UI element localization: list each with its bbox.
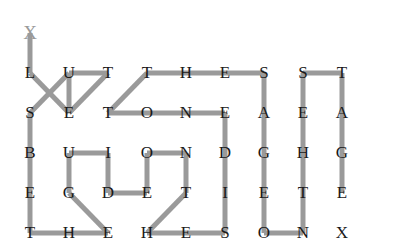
grid-letter-r0-c5[interactable]: E [213, 61, 237, 85]
grid-letter-r2-c4[interactable]: N [174, 141, 198, 165]
grid-letter-r3-c5[interactable]: I [213, 181, 237, 205]
puzzle-canvas: LUTTHESSTSETONEAEABUIONDGHGEGDETIETETHEH… [0, 0, 395, 242]
grid-letter-r3-c3[interactable]: E [135, 181, 159, 205]
grid-letter-r3-c1[interactable]: G [57, 181, 81, 205]
grid-letter-r2-c7[interactable]: H [291, 141, 315, 165]
grid-letter-r1-c0[interactable]: S [18, 101, 42, 125]
grid-letter-r4-c5[interactable]: S [213, 221, 237, 242]
grid-letter-r4-c4[interactable]: E [174, 221, 198, 242]
grid-letter-r2-c1[interactable]: U [57, 141, 81, 165]
grid-letter-r1-c7[interactable]: E [291, 101, 315, 125]
grid-letter-r4-c7[interactable]: N [291, 221, 315, 242]
grid-letter-r0-c0[interactable]: L [18, 61, 42, 85]
grid-letter-r3-c8[interactable]: E [330, 181, 354, 205]
grid-letter-r0-c3[interactable]: T [135, 61, 159, 85]
grid-letter-r1-c6[interactable]: A [252, 101, 276, 125]
grid-letter-r0-c6[interactable]: S [252, 61, 276, 85]
grid-letter-r4-c0[interactable]: T [18, 221, 42, 242]
grid-letter-r3-c2[interactable]: D [96, 181, 120, 205]
grid-letter-r0-c4[interactable]: H [174, 61, 198, 85]
grid-letter-r3-c4[interactable]: T [174, 181, 198, 205]
grid-letter-r4-c1[interactable]: H [57, 221, 81, 242]
grid-letter-r0-c7[interactable]: S [291, 61, 315, 85]
grid-letter-r0-c8[interactable]: T [330, 61, 354, 85]
grid-letter-r3-c0[interactable]: E [18, 181, 42, 205]
grid-letter-r1-c1[interactable]: E [57, 101, 81, 125]
grid-letter-r2-c0[interactable]: B [18, 141, 42, 165]
grid-letter-r4-c6[interactable]: O [252, 221, 276, 242]
grid-letter-r2-c8[interactable]: G [330, 141, 354, 165]
grid-letter-r4-c2[interactable]: E [96, 221, 120, 242]
grid-letter-r2-c3[interactable]: O [135, 141, 159, 165]
grid-letter-r2-c5[interactable]: D [213, 141, 237, 165]
grid-letter-r4-c3[interactable]: H [135, 221, 159, 242]
grid-letter-r3-c7[interactable]: T [291, 181, 315, 205]
letter-grid: LUTTHESSTSETONEAEABUIONDGHGEGDETIETETHEH… [0, 0, 395, 242]
grid-letter-r1-c8[interactable]: A [330, 101, 354, 125]
grid-letter-r1-c2[interactable]: T [96, 101, 120, 125]
grid-letter-r1-c3[interactable]: O [135, 101, 159, 125]
grid-letter-r3-c6[interactable]: E [252, 181, 276, 205]
path-start-x-marker: X [18, 21, 42, 45]
grid-letter-r2-c2[interactable]: I [96, 141, 120, 165]
grid-letter-r2-c6[interactable]: G [252, 141, 276, 165]
grid-letter-r0-c1[interactable]: U [57, 61, 81, 85]
grid-letter-r0-c2[interactable]: T [96, 61, 120, 85]
grid-letter-r4-c8[interactable]: X [330, 221, 354, 242]
grid-letter-r1-c4[interactable]: N [174, 101, 198, 125]
grid-letter-r1-c5[interactable]: E [213, 101, 237, 125]
